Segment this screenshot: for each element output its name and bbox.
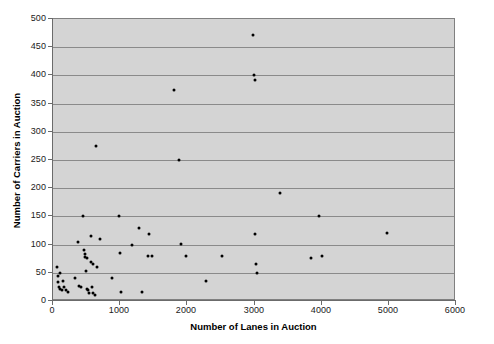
data-point: [82, 248, 85, 251]
data-point: [111, 277, 114, 280]
data-point: [99, 237, 102, 240]
data-point: [179, 243, 182, 246]
gridline-y: [53, 216, 454, 217]
data-point: [172, 88, 175, 91]
data-point: [119, 252, 122, 255]
data-point: [74, 276, 77, 279]
data-point: [92, 263, 95, 266]
gridline-y: [53, 188, 454, 189]
data-point: [93, 294, 96, 297]
data-point: [255, 271, 258, 274]
y-tick-mark: [48, 215, 52, 216]
gridline-y: [53, 47, 454, 48]
data-point: [82, 215, 85, 218]
gridline-y: [53, 160, 454, 161]
data-point: [131, 243, 134, 246]
x-tick-label: 4000: [299, 305, 343, 315]
data-point: [252, 33, 255, 36]
data-point: [86, 257, 89, 260]
data-point: [184, 254, 187, 257]
x-tick-label: 6000: [433, 305, 477, 315]
data-point: [254, 263, 257, 266]
x-tick-label: 2000: [164, 305, 208, 315]
x-tick-label: 1000: [97, 305, 141, 315]
data-point: [317, 214, 320, 217]
data-point: [89, 235, 92, 238]
data-point: [76, 240, 79, 243]
data-point: [386, 232, 389, 235]
data-point: [178, 159, 181, 162]
y-tick-mark: [48, 272, 52, 273]
scatter-chart: 050100150200250300350400450500 010002000…: [0, 0, 494, 344]
y-tick-mark: [48, 74, 52, 75]
data-point: [84, 270, 87, 273]
data-point: [309, 256, 312, 259]
data-point: [58, 271, 61, 274]
data-point: [87, 292, 90, 295]
data-point: [94, 144, 97, 147]
y-tick-mark: [48, 187, 52, 188]
x-tick-label: 5000: [366, 305, 410, 315]
data-point: [147, 254, 150, 257]
gridline-y: [53, 104, 454, 105]
data-point: [79, 286, 82, 289]
data-point: [141, 290, 144, 293]
data-point: [254, 233, 257, 236]
gridline-y: [53, 132, 454, 133]
y-tick-mark: [48, 18, 52, 19]
x-axis-title: Number of Lanes in Auction: [52, 321, 455, 332]
data-point: [253, 78, 256, 81]
data-point: [221, 254, 224, 257]
data-point: [252, 74, 255, 77]
data-point: [205, 279, 208, 282]
data-point: [320, 254, 323, 257]
y-axis-line: [52, 18, 53, 301]
plot-area: [52, 18, 455, 300]
data-point: [56, 274, 59, 277]
y-axis-title: Number of Carriers in Auction: [11, 61, 22, 261]
y-tick-label: 50: [12, 267, 46, 277]
x-tick-label: 3000: [232, 305, 276, 315]
data-point: [90, 286, 93, 289]
y-tick-label: 500: [12, 13, 46, 23]
y-tick-mark: [48, 103, 52, 104]
data-point: [62, 279, 65, 282]
data-point: [117, 215, 120, 218]
data-point: [137, 226, 140, 229]
data-point: [151, 254, 154, 257]
y-tick-mark: [48, 159, 52, 160]
gridline-y: [53, 245, 454, 246]
data-point: [148, 232, 151, 235]
gridline-y: [53, 273, 454, 274]
data-point: [95, 266, 98, 269]
y-tick-mark: [48, 244, 52, 245]
x-tick-label: 0: [30, 305, 74, 315]
y-tick-label: 0: [12, 295, 46, 305]
data-point: [67, 290, 70, 293]
y-tick-mark: [48, 131, 52, 132]
y-tick-mark: [48, 46, 52, 47]
data-point: [56, 266, 59, 269]
data-point: [57, 281, 60, 284]
y-tick-label: 450: [12, 41, 46, 51]
data-point: [119, 290, 122, 293]
data-point: [279, 191, 282, 194]
